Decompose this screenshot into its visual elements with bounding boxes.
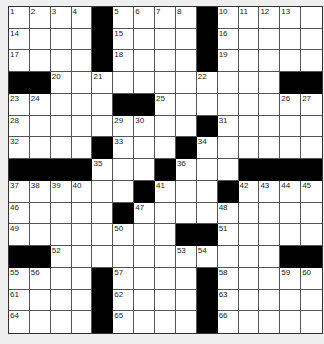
grid-cell[interactable]: 59 bbox=[280, 268, 301, 290]
grid-cell[interactable]: 35 bbox=[92, 159, 113, 181]
grid-cell[interactable] bbox=[134, 311, 155, 333]
grid-cell[interactable] bbox=[301, 290, 322, 312]
grid-cell[interactable] bbox=[280, 29, 301, 51]
grid-cell[interactable]: 19 bbox=[218, 50, 239, 72]
grid-cell[interactable]: 12 bbox=[259, 7, 280, 29]
grid-cell[interactable] bbox=[134, 50, 155, 72]
grid-cell[interactable] bbox=[51, 311, 72, 333]
grid-cell[interactable] bbox=[72, 203, 93, 225]
grid-cell[interactable]: 25 bbox=[155, 94, 176, 116]
grid-cell[interactable] bbox=[259, 29, 280, 51]
grid-cell[interactable]: 53 bbox=[176, 246, 197, 268]
grid-cell[interactable]: 32 bbox=[9, 137, 30, 159]
grid-cell[interactable] bbox=[72, 290, 93, 312]
grid-cell[interactable] bbox=[113, 72, 134, 94]
grid-cell[interactable] bbox=[134, 224, 155, 246]
grid-cell[interactable] bbox=[72, 72, 93, 94]
grid-cell[interactable] bbox=[113, 246, 134, 268]
grid-cell[interactable] bbox=[155, 116, 176, 138]
grid-cell[interactable] bbox=[197, 181, 218, 203]
grid-cell[interactable]: 1 bbox=[9, 7, 30, 29]
grid-cell[interactable] bbox=[51, 29, 72, 51]
grid-cell[interactable] bbox=[301, 116, 322, 138]
grid-cell[interactable] bbox=[301, 311, 322, 333]
grid-cell[interactable]: 16 bbox=[218, 29, 239, 51]
grid-cell[interactable] bbox=[134, 29, 155, 51]
grid-cell[interactable] bbox=[218, 159, 239, 181]
grid-cell[interactable] bbox=[239, 29, 260, 51]
grid-cell[interactable] bbox=[51, 137, 72, 159]
grid-cell[interactable] bbox=[176, 94, 197, 116]
grid-cell[interactable] bbox=[259, 50, 280, 72]
grid-cell[interactable] bbox=[218, 72, 239, 94]
grid-cell[interactable] bbox=[51, 290, 72, 312]
grid-cell[interactable]: 31 bbox=[218, 116, 239, 138]
grid-cell[interactable]: 7 bbox=[155, 7, 176, 29]
grid-cell[interactable]: 34 bbox=[197, 137, 218, 159]
grid-cell[interactable]: 4 bbox=[72, 7, 93, 29]
grid-cell[interactable] bbox=[30, 311, 51, 333]
grid-cell[interactable]: 23 bbox=[9, 94, 30, 116]
grid-cell[interactable] bbox=[113, 181, 134, 203]
grid-cell[interactable] bbox=[197, 94, 218, 116]
grid-cell[interactable]: 61 bbox=[9, 290, 30, 312]
grid-cell[interactable] bbox=[72, 29, 93, 51]
grid-cell[interactable] bbox=[280, 311, 301, 333]
grid-cell[interactable]: 56 bbox=[30, 268, 51, 290]
grid-cell[interactable] bbox=[301, 137, 322, 159]
grid-cell[interactable]: 2 bbox=[30, 7, 51, 29]
grid-cell[interactable]: 33 bbox=[113, 137, 134, 159]
grid-cell[interactable]: 62 bbox=[113, 290, 134, 312]
grid-cell[interactable] bbox=[259, 137, 280, 159]
grid-cell[interactable] bbox=[239, 268, 260, 290]
grid-cell[interactable] bbox=[30, 116, 51, 138]
grid-cell[interactable] bbox=[155, 137, 176, 159]
grid-cell[interactable] bbox=[92, 116, 113, 138]
grid-cell[interactable] bbox=[30, 290, 51, 312]
grid-cell[interactable] bbox=[72, 137, 93, 159]
grid-cell[interactable] bbox=[301, 50, 322, 72]
grid-cell[interactable]: 14 bbox=[9, 29, 30, 51]
grid-cell[interactable]: 29 bbox=[113, 116, 134, 138]
grid-cell[interactable]: 66 bbox=[218, 311, 239, 333]
grid-cell[interactable] bbox=[176, 290, 197, 312]
grid-cell[interactable] bbox=[72, 311, 93, 333]
grid-cell[interactable]: 3 bbox=[51, 7, 72, 29]
grid-cell[interactable] bbox=[176, 203, 197, 225]
grid-cell[interactable] bbox=[239, 311, 260, 333]
grid-cell[interactable]: 46 bbox=[9, 203, 30, 225]
grid-cell[interactable]: 26 bbox=[280, 94, 301, 116]
grid-cell[interactable] bbox=[134, 268, 155, 290]
grid-cell[interactable] bbox=[280, 203, 301, 225]
grid-cell[interactable]: 10 bbox=[218, 7, 239, 29]
grid-cell[interactable]: 11 bbox=[239, 7, 260, 29]
grid-cell[interactable]: 54 bbox=[197, 246, 218, 268]
grid-cell[interactable] bbox=[30, 137, 51, 159]
grid-cell[interactable] bbox=[280, 224, 301, 246]
grid-cell[interactable] bbox=[239, 246, 260, 268]
grid-cell[interactable] bbox=[155, 268, 176, 290]
grid-cell[interactable]: 43 bbox=[259, 181, 280, 203]
grid-cell[interactable] bbox=[92, 94, 113, 116]
grid-cell[interactable] bbox=[134, 290, 155, 312]
grid-cell[interactable]: 58 bbox=[218, 268, 239, 290]
grid-cell[interactable] bbox=[280, 290, 301, 312]
grid-cell[interactable] bbox=[301, 7, 322, 29]
grid-cell[interactable] bbox=[301, 29, 322, 51]
grid-cell[interactable] bbox=[280, 116, 301, 138]
grid-cell[interactable]: 37 bbox=[9, 181, 30, 203]
grid-cell[interactable]: 27 bbox=[301, 94, 322, 116]
grid-cell[interactable] bbox=[155, 246, 176, 268]
grid-cell[interactable]: 36 bbox=[176, 159, 197, 181]
grid-cell[interactable] bbox=[301, 224, 322, 246]
grid-cell[interactable] bbox=[51, 50, 72, 72]
grid-cell[interactable] bbox=[92, 246, 113, 268]
grid-cell[interactable]: 21 bbox=[92, 72, 113, 94]
grid-cell[interactable]: 65 bbox=[113, 311, 134, 333]
grid-cell[interactable] bbox=[134, 72, 155, 94]
grid-cell[interactable] bbox=[155, 311, 176, 333]
grid-cell[interactable]: 39 bbox=[51, 181, 72, 203]
grid-cell[interactable]: 40 bbox=[72, 181, 93, 203]
grid-cell[interactable] bbox=[155, 224, 176, 246]
grid-cell[interactable] bbox=[239, 224, 260, 246]
